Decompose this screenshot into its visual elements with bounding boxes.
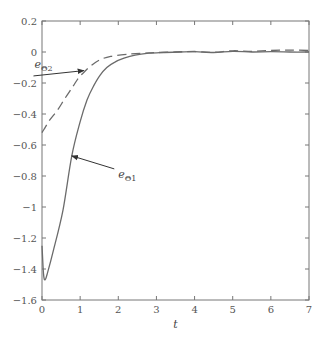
x-tick-label: 5 [230, 304, 236, 315]
y-tick-label: −1.4 [13, 264, 37, 275]
y-tick-label: −0.4 [13, 109, 37, 120]
series-e-theta2-line [42, 50, 309, 133]
x-tick-label: 2 [115, 304, 121, 315]
line-chart: 01234567 0.20−0.2−0.4−0.6−0.8−1−1.2−1.4−… [0, 0, 326, 338]
y-tick-label: −0.8 [13, 171, 37, 182]
y-tick-label: −1 [22, 202, 37, 213]
x-tick-label: 4 [191, 304, 197, 315]
y-tick-label: −1.2 [13, 233, 37, 244]
series-e-theta1-line [42, 51, 309, 279]
y-tick-label: −1.6 [13, 295, 37, 306]
label-e-theta2: eΘ2 [34, 58, 52, 73]
x-tick-label: 0 [39, 304, 45, 315]
x-tick-label: 7 [306, 304, 312, 315]
x-tick-label: 6 [268, 304, 274, 315]
annotation-arrow [72, 156, 115, 169]
label-e-theta1: eΘ1 [118, 168, 136, 183]
y-tick-label: 0 [31, 47, 37, 58]
series-group [42, 50, 309, 280]
x-axis-label: t [173, 318, 178, 331]
annotations: eΘ2eΘ1 [33, 58, 136, 183]
x-tick-label: 1 [77, 304, 83, 315]
plot-frame [42, 21, 309, 300]
y-tick-label: −0.6 [13, 140, 37, 151]
y-axis-ticks: 0.20−0.2−0.4−0.6−0.8−1−1.2−1.4−1.6 [13, 16, 309, 306]
y-tick-label: 0.2 [21, 16, 37, 27]
x-tick-label: 3 [153, 304, 159, 315]
x-axis-ticks: 01234567 [39, 21, 312, 315]
y-tick-label: −0.2 [13, 78, 37, 89]
